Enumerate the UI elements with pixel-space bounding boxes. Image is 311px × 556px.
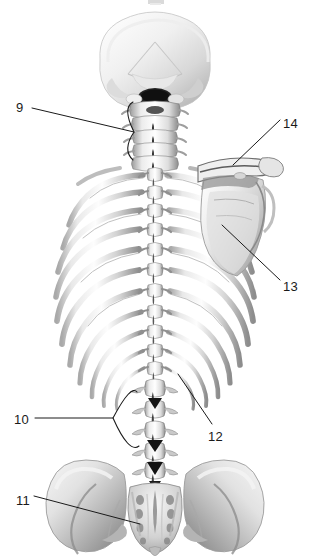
- occipital-skull: [100, 12, 211, 110]
- label-9: 9: [16, 100, 23, 115]
- anatomy-figure: 9 14 13 10 12 11: [0, 0, 311, 556]
- label-14: 14: [283, 116, 298, 131]
- ilium-left: [46, 460, 127, 554]
- label-10: 10: [14, 412, 29, 427]
- label-13: 13: [283, 279, 298, 294]
- label-11: 11: [16, 493, 30, 508]
- ilium-right: [183, 460, 264, 554]
- skeleton-illustration: 9 14 13 10 12 11: [0, 0, 311, 556]
- label-12: 12: [208, 429, 223, 444]
